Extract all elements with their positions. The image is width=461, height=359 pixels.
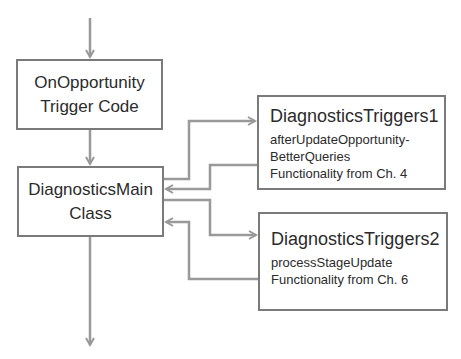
triggers1-line-1: afterUpdateOpportunity- — [270, 131, 444, 148]
triggers1-title: DiagnosticsTriggers1 — [270, 105, 444, 127]
triggers1-box: DiagnosticsTriggers1 afterUpdateOpportun… — [257, 95, 446, 190]
main-class-box: DiagnosticsMain Class — [17, 166, 164, 237]
main-class-label-1: DiagnosticsMain — [28, 178, 153, 202]
triggers2-box: DiagnosticsTriggers2 processStageUpdate … — [258, 212, 448, 311]
triggers1-line-2: BetterQueries — [270, 148, 444, 165]
triggers2-line-2: Functionality from Ch. 6 — [271, 271, 446, 288]
triggers1-to-main-arrow — [166, 165, 257, 189]
trigger-code-label-2: Trigger Code — [40, 95, 139, 119]
trigger-code-box: OnOpportunity Trigger Code — [16, 59, 163, 130]
triggers2-title: DiagnosticsTriggers2 — [271, 228, 446, 250]
main-to-triggers2-arrow — [164, 200, 256, 235]
triggers2-line-1: processStageUpdate — [271, 254, 446, 271]
trigger-code-label-1: OnOpportunity — [34, 71, 145, 95]
triggers1-line-3: Functionality from Ch. 4 — [270, 165, 444, 182]
main-class-label-2: Class — [69, 202, 112, 226]
triggers2-to-main-arrow — [166, 222, 258, 279]
